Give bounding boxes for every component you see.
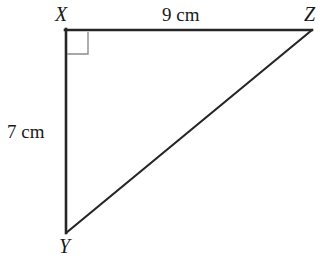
side-length-label-xy: 7 cm: [7, 122, 44, 141]
vertex-label-z: Z: [304, 4, 315, 24]
right-angle-mark-icon: [67, 32, 88, 54]
vertex-label-x: X: [55, 4, 67, 24]
side-YZ-hypotenuse-line: [66, 30, 312, 233]
triangle-drawing: [0, 0, 330, 259]
vertex-label-y: Y: [59, 236, 70, 256]
side-length-label-xz: 9 cm: [162, 5, 199, 24]
geometry-figure: X Z Y 9 cm 7 cm: [0, 0, 330, 259]
